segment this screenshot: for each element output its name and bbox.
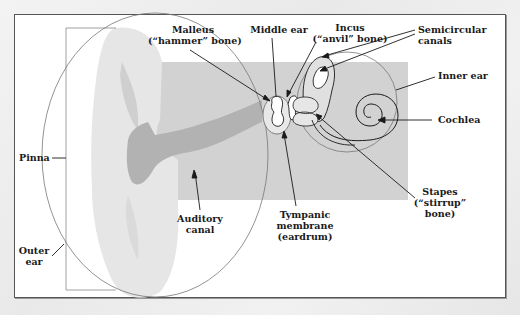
label-tympanic-line2: membrane: [270, 220, 340, 231]
arrow-semicircular-1: [322, 53, 329, 58]
label-outer-ear: Outer ear: [16, 245, 52, 267]
label-middle-ear: Middle ear: [244, 24, 314, 35]
label-malleus-line2: (“hammer” bone): [148, 35, 238, 46]
label-malleus: Malleus (“hammer” bone): [148, 24, 238, 46]
label-tympanic-line1: Tympanic: [270, 209, 340, 220]
label-incus-line2: (“anvil” bone): [310, 33, 390, 44]
vestibule-loops: [293, 97, 318, 126]
malleus-bone: [272, 96, 284, 126]
label-stapes-line1: Stapes: [410, 186, 470, 197]
label-tympanic-membrane: Tympanic membrane (eardrum): [270, 209, 340, 242]
label-inner-ear: Inner ear: [438, 70, 488, 81]
label-pinna: Pinna: [19, 152, 50, 163]
label-outer-ear-line1: Outer: [16, 245, 52, 256]
label-auditory-canal: Auditory canal: [170, 213, 230, 235]
label-middle-ear-line1: Middle ear: [244, 24, 314, 35]
label-auditory-line1: Auditory: [170, 213, 230, 224]
label-inner-ear-line1: Inner ear: [438, 70, 488, 81]
label-incus: Incus (“anvil” bone): [310, 22, 390, 44]
label-tympanic-line3: (eardrum): [270, 231, 340, 242]
label-semicircular-canals: Semicircular canals: [418, 24, 486, 46]
label-outer-ear-line2: ear: [16, 256, 52, 267]
label-pinna-line1: Pinna: [19, 152, 50, 163]
label-malleus-line1: Malleus: [148, 24, 238, 35]
label-stapes: Stapes (“stirrup” bone): [410, 186, 470, 219]
label-semicircular-line1: Semicircular: [418, 24, 486, 35]
label-stapes-line3: bone): [410, 208, 470, 219]
leader-outer-ear: [52, 244, 64, 256]
label-cochlea-line1: Cochlea: [438, 114, 480, 125]
label-stapes-line2: (“stirrup”: [410, 197, 470, 208]
label-cochlea: Cochlea: [438, 114, 480, 125]
ear-diagram: [0, 0, 520, 315]
label-auditory-line2: canal: [170, 224, 230, 235]
label-semicircular-line2: canals: [418, 35, 486, 46]
label-incus-line1: Incus: [310, 22, 390, 33]
